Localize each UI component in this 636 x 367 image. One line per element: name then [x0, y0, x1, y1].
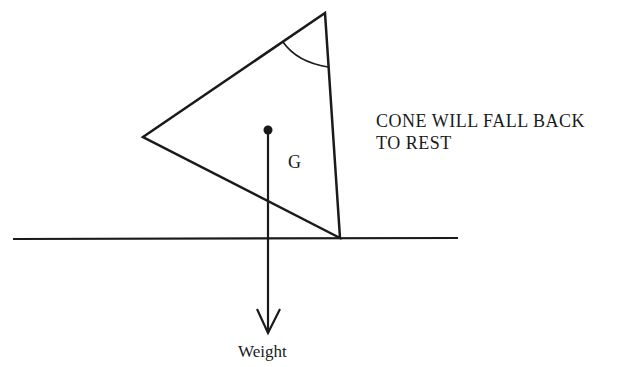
cone-triangle [143, 13, 340, 238]
weight-label: Weight [238, 342, 287, 362]
note-line-1: CONE WILL FALL BACK [376, 110, 585, 132]
centroid-label: G [288, 152, 301, 173]
diagram-canvas: CONE WILL FALL BACK TO REST G Weight [0, 0, 636, 367]
ground-line [13, 238, 458, 239]
note-line-2: TO REST [376, 132, 585, 154]
apex-angle-arc [283, 42, 328, 67]
fall-back-note: CONE WILL FALL BACK TO REST [376, 110, 585, 154]
diagram-svg [0, 0, 636, 367]
